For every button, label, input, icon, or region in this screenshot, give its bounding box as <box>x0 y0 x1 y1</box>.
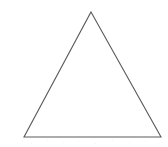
jpeg-speck <box>63 142 64 143</box>
jpeg-speck <box>78 141 79 142</box>
jpeg-speck <box>129 142 130 143</box>
jpeg-speck <box>31 143 32 144</box>
jpeg-speck <box>47 140 48 141</box>
triangle-outline <box>24 12 161 137</box>
jpeg-speck <box>22 141 23 142</box>
triangle-figure-canvas: triangle <box>0 0 168 147</box>
jpeg-speck <box>95 143 96 144</box>
jpeg-speck <box>112 140 113 141</box>
jpeg-speck <box>158 143 159 144</box>
jpeg-speck <box>145 141 146 142</box>
triangle-svg <box>0 0 168 147</box>
